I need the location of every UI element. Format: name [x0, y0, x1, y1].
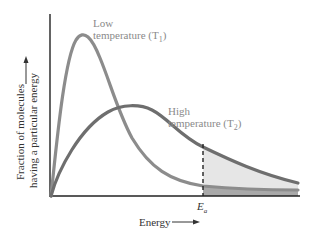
y-axis-arrowhead — [24, 56, 29, 63]
low-label-line1: Low — [93, 17, 166, 29]
high-temperature-label: High temperature (T2) — [168, 105, 241, 134]
low-label-line2: temperature (T1) — [93, 29, 166, 46]
x-axis-arrowhead — [193, 220, 200, 225]
high-label-line1: High — [168, 105, 241, 117]
x-axis-label: Energy — [139, 216, 171, 228]
low-temperature-label: Low temperature (T1) — [93, 17, 166, 46]
ea-label: Ea — [197, 200, 207, 217]
y-axis-label: Fraction of molecules having a particula… — [14, 73, 40, 196]
y-axis-label-line2: having a particular energy — [27, 73, 40, 196]
y-axis-label-line1: Fraction of molecules — [14, 73, 27, 196]
high-label-line2: temperature (T2) — [168, 117, 241, 134]
